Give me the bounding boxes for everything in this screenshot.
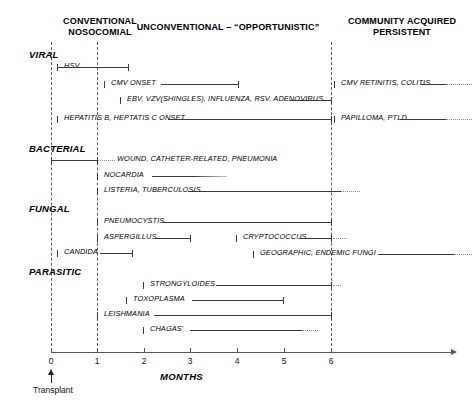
bar-start-cap-chagas: [143, 327, 144, 334]
bar-label-strongyloides: STRONGYLOIDES: [150, 280, 215, 288]
bar-line-listeria: [188, 191, 341, 192]
bar-dotted-tail-chagas: [302, 330, 318, 331]
bar-start-cap-geographic: [253, 251, 254, 258]
bar-label-cmv-retinitis: CMV RETINITIS, COLITIS: [341, 79, 430, 87]
bar-line-pneumocystis: [163, 222, 331, 223]
bar-end-cap-leishmania: [331, 312, 332, 319]
bar-label-aspergillus: ASPERGILLUS: [104, 233, 156, 241]
bar-label-geographic: GEOGRAPHIC, ENDEMIC FUNGI: [260, 249, 376, 257]
bar-label-ebv-group: EBV, VZV(SHINGLES), INFLUENZA, RSV, ADEN…: [127, 95, 323, 103]
bar-start-cap-ebv-group: [120, 97, 121, 104]
x-axis-tick-3: [190, 348, 191, 352]
bar-label-hsv: HSV: [64, 62, 80, 70]
bar-line-ebv-group: [290, 100, 331, 101]
bar-dotted-tail-strongyloides: [333, 285, 341, 286]
bar-end-cap-ebv-group: [331, 97, 332, 104]
bar-line-toxoplasma: [192, 300, 283, 301]
x-axis-arrowhead: [451, 349, 457, 355]
infection-timeline-figure: CONVENTIONAL NOSOCOMIAL UNCONVENTIONAL –…: [0, 0, 476, 404]
x-axis-title: MONTHS: [160, 371, 203, 382]
bar-line-cmv-retinitis: [421, 84, 446, 85]
bar-line-chagas: [190, 330, 302, 331]
x-axis-tick-0: [51, 348, 52, 352]
x-axis-tick-6: [331, 348, 332, 352]
x-axis-tick-label-6: 6: [321, 356, 341, 366]
bar-label-leishmania: LEISHMANIA: [104, 310, 150, 318]
x-axis-line: [51, 352, 451, 353]
bar-label-papilloma: PAPILLOMA, PTLD: [341, 114, 407, 122]
category-label-viral: VIRAL: [29, 49, 59, 60]
bar-start-cap-nocardia: [97, 173, 98, 180]
bar-line-cmv-onset: [161, 84, 238, 85]
bar-line-hsv: [57, 67, 128, 68]
bar-start-cap-pneumocystis: [97, 219, 98, 226]
bar-label-pneumocystis: PNEUMOCYSTIS: [104, 217, 164, 225]
bar-dotted-tail-wound: [98, 160, 115, 161]
bar-label-candida: CANDIDA: [64, 248, 98, 256]
bar-start-cap-candida: [57, 250, 58, 257]
bar-label-nocardia: NOCARDIA: [104, 171, 144, 179]
bar-label-cryptococcus: CRYPTOCOCCUS: [243, 233, 307, 241]
category-label-fungal: FUNGAL: [29, 203, 70, 214]
header-community-line2: PERSISTENT: [336, 27, 468, 38]
bar-end-cap-aspergillus: [190, 235, 191, 242]
bar-start-cap-aspergillus: [97, 235, 98, 242]
x-axis-tick-2: [144, 348, 145, 352]
bar-dotted-tail-geographic: [454, 254, 472, 255]
bar-start-cap-hepatitis: [57, 116, 58, 123]
x-axis-tick-label-3: 3: [180, 356, 200, 366]
transplant-marker-label: Transplant: [33, 385, 73, 395]
divider-month-6: [331, 42, 332, 346]
bar-line-nocardia: [152, 176, 227, 177]
bar-label-chagas: CHAGAS': [150, 325, 183, 333]
header-unconventional-opportunistic: UNCONVENTIONAL – “OPPORTUNISTIC”: [118, 22, 338, 33]
bar-start-cap-leishmania: [97, 312, 98, 319]
bar-line-aspergillus: [155, 238, 190, 239]
bar-dotted-tail-listeria: [341, 191, 360, 192]
bar-start-cap-strongyloides: [143, 282, 144, 289]
bar-label-cmv-onset: CMV ONSET: [111, 79, 156, 87]
bar-start-cap-cmv-onset: [104, 81, 105, 88]
bar-line-hepatitis: [168, 119, 331, 120]
x-axis-tick-label-5: 5: [274, 356, 294, 366]
bar-line-cryptococcus: [300, 238, 331, 239]
bar-start-cap-listeria: [97, 188, 98, 195]
bar-label-toxoplasma: TOXOPLASMA: [133, 295, 185, 303]
bar-line-wound: [51, 160, 97, 161]
bar-end-cap-hsv: [128, 64, 129, 71]
bar-line-leishmania: [154, 315, 331, 316]
x-axis-tick-label-0: 0: [41, 356, 61, 366]
bar-end-cap-hepatitis: [331, 116, 332, 123]
x-axis-tick-label-1: 1: [87, 356, 107, 366]
bar-end-cap-strongyloides: [331, 282, 332, 289]
bar-end-cap-candida: [132, 250, 133, 257]
bar-start-cap-toxoplasma: [126, 297, 127, 304]
bar-end-cap-cmv-onset: [238, 81, 239, 88]
bar-line-strongyloides: [216, 285, 331, 286]
bar-label-hepatitis: HEPATITIS B, HEPTATIS C ONSET: [64, 114, 185, 122]
bar-start-cap-papilloma: [334, 116, 335, 123]
bar-label-listeria: LISTERIA, TUBERCULOSIS: [104, 186, 201, 194]
bar-line-candida: [100, 253, 132, 254]
divider-month-0: [51, 42, 52, 346]
category-label-bacterial: BACTERIAL: [29, 143, 86, 154]
bar-end-cap-cryptococcus: [331, 235, 332, 242]
bar-line-papilloma: [400, 119, 446, 120]
bar-end-cap-pneumocystis: [331, 219, 332, 226]
x-axis-tick-5: [284, 348, 285, 352]
category-label-parasitic: PARASITIC: [29, 266, 81, 277]
bar-start-cap-cmv-retinitis: [334, 81, 335, 88]
bar-dotted-tail-papilloma: [446, 119, 472, 120]
bar-dotted-tail-cmv-retinitis: [446, 84, 472, 85]
x-axis-tick-label-2: 2: [134, 356, 154, 366]
bar-end-cap-toxoplasma: [283, 297, 284, 304]
x-axis-tick-1: [97, 348, 98, 352]
x-axis-tick-label-4: 4: [227, 356, 247, 366]
bar-dotted-tail-cryptococcus: [333, 238, 347, 239]
x-axis-tick-4: [237, 348, 238, 352]
header-unconventional-line1: UNCONVENTIONAL – “OPPORTUNISTIC”: [118, 22, 338, 33]
bar-label-wound: WOUND, CATHETER-RELATED, PNEUMONIA: [117, 155, 277, 163]
header-community-acquired-persistent: COMMUNITY ACQUIRED PERSISTENT: [336, 16, 468, 38]
header-community-line1: COMMUNITY ACQUIRED: [336, 16, 468, 27]
transplant-marker-stem: [51, 374, 52, 383]
